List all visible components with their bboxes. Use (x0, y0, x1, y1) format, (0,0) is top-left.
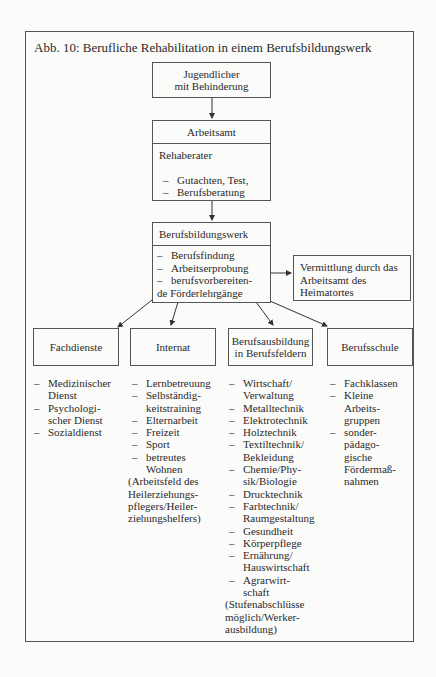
node-arbeitsamt-list: Gutachten, Test, Berufsberatung (159, 174, 264, 199)
list-item-line: Körperpflege (243, 537, 325, 549)
node-vermittlung-text: Vermittlung durch das Arbeitsamt des Hei… (300, 261, 404, 299)
list-item-line: Wirtschaft/ (243, 377, 325, 389)
list-item-line: Drucktechnik (243, 488, 325, 500)
node-berufsausbildung-line2: in Berufsfeldern (235, 347, 307, 360)
berufsausbildung-note: (Stufenabschlüssemöglich/Werker-ausbildu… (225, 598, 325, 635)
list-item: Wirtschaft/Verwaltung (225, 377, 325, 402)
list-item-line: Metalltechnik (243, 402, 325, 414)
list-item: Berufsberatung (159, 186, 264, 199)
list-item: betreutesWohnen (128, 451, 224, 476)
list-item: Gutachten, Test, (159, 174, 264, 187)
list-item: sonder-pädago-gischeFördermaß-nahmen (326, 426, 410, 487)
node-berufsschule-label: Berufsschule (341, 341, 398, 354)
note-line: (Stufenabschlüsse (225, 598, 325, 610)
list-item-line: Gesundheit (243, 525, 325, 537)
list-item: Sozialdienst (30, 426, 120, 438)
list-item-line: Hauswirtschaft (243, 561, 325, 573)
list-item: MedizinischerDienst (30, 377, 120, 402)
list-item: Drucktechnik (225, 488, 325, 500)
list-item: Gesundheit (225, 525, 325, 537)
node-berufsausbildung: Berufsausbildung in Berufsfeldern (228, 328, 313, 366)
list-item: Selbständig-keitstraining (128, 389, 224, 414)
list-item: Elternarbeit (128, 414, 224, 426)
list-internat: LernbetreuungSelbständig-keitstrainingEl… (128, 377, 224, 525)
list-item-line: keitstraining (146, 402, 224, 414)
arrow-bbw-berufsschule (270, 301, 327, 326)
node-berufsausbildung-line1: Berufsausbildung (232, 335, 310, 348)
list-item-line: Bekleidung (243, 451, 325, 463)
list-item: Chemie/Phy-sik/Biologie (225, 463, 325, 488)
node-arbeitsamt-header: Arbeitsamt (153, 121, 270, 144)
node-jugendlicher-line2: mit Behinderung (174, 80, 248, 93)
list-berufsausbildung: Wirtschaft/VerwaltungMetalltechnikElektr… (225, 377, 325, 635)
note-line: (Arbeitsfeld des (128, 475, 224, 487)
node-arbeitsamt-subtitle: Rehaberater (159, 149, 264, 162)
list-fachdienste: MedizinischerDienstPsychologi-scher Dien… (30, 377, 120, 438)
list-item-line: Arbeits- (344, 402, 410, 414)
list-item: Berufsfindung (153, 249, 270, 262)
node-fachdienste: Fachdienste (33, 328, 119, 366)
note-line: pflegers/Heiler- (128, 500, 224, 512)
list-item-line: Psychologi- (48, 402, 120, 414)
list-item-line: pädago- (344, 438, 410, 450)
list-item-line: gische (344, 451, 410, 463)
list-item: Fachklassen (326, 377, 410, 389)
list-item: Metalltechnik (225, 402, 325, 414)
list-item: Farbtechnik/Raumgestaltung (225, 500, 325, 525)
list-item: Holztechnik (225, 426, 325, 438)
node-jugendlicher-line1: Jugendlicher (183, 68, 239, 81)
node-berufsbildungswerk-continuation: de Förderlehrgänge (153, 287, 270, 300)
list-item-line: Dienst (48, 389, 120, 401)
node-fachdienste-label: Fachdienste (50, 341, 103, 354)
list-item-line: betreutes (146, 451, 224, 463)
list-item: Sport (128, 438, 224, 450)
node-berufsschule: Berufsschule (327, 328, 413, 366)
list-item-line: Fachklassen (344, 377, 410, 389)
list-item-line: Elternarbeit (146, 414, 224, 426)
list-item-line: Selbständig- (146, 389, 224, 401)
list-item: berufsvorbereiten- (153, 274, 270, 287)
note-line: möglich/Werker- (225, 611, 325, 623)
list-item: Körperpflege (225, 537, 325, 549)
list-item-line: nahmen (344, 475, 410, 487)
list-item-line: sik/Biologie (243, 475, 325, 487)
node-arbeitsamt: Arbeitsamt Rehaberater Gutachten, Test, … (152, 120, 271, 201)
list-item-line: Farbtechnik/ (243, 500, 325, 512)
list-item: KleineArbeits-gruppen (326, 389, 410, 426)
list-item: Psychologi-scher Dienst (30, 402, 120, 427)
internat-note: (Arbeitsfeld desHeilerziehungs-pflegers/… (128, 475, 224, 524)
arrow-bbw-internat (171, 302, 178, 325)
list-item-line: Kleine (344, 389, 410, 401)
list-item-line: Medizinischer (48, 377, 120, 389)
list-item-line: Ernährung/ (243, 549, 325, 561)
list-item-line: Holztechnik (243, 426, 325, 438)
list-item-line: Lernbetreuung (146, 377, 224, 389)
node-jugendlicher: Jugendlicher mit Behinderung (152, 62, 271, 98)
list-item-line: Fördermaß- (344, 463, 410, 475)
list-item-line: schaft (243, 586, 325, 598)
list-item-line: Chemie/Phy- (243, 463, 325, 475)
node-berufsbildungswerk-header: Berufsbildungswerk (153, 223, 270, 246)
list-berufsschule: FachklassenKleineArbeits-gruppensonder-p… (326, 377, 410, 488)
arrow-bbw-berufsausbildung (256, 302, 273, 325)
node-berufsbildungswerk: Berufsbildungswerk Berufsfindung Arbeits… (152, 222, 271, 303)
note-line: Heilerziehungs- (128, 488, 224, 500)
arrow-bbw-fachdienste (118, 300, 152, 327)
berufsausbildung-items: Wirtschaft/VerwaltungMetalltechnikElektr… (225, 377, 325, 598)
berufsschule-items: FachklassenKleineArbeits-gruppensonder-p… (326, 377, 410, 488)
list-item-line: Raumgestaltung (243, 512, 325, 524)
node-vermittlung: Vermittlung durch das Arbeitsamt des Hei… (293, 255, 411, 301)
node-internat-label: Internat (156, 341, 190, 354)
list-item: Textiltechnik/Bekleidung (225, 438, 325, 463)
list-item-line: Sozialdienst (48, 426, 120, 438)
note-line: ausbildung) (225, 623, 325, 635)
list-item-line: Elektrotechnik (243, 414, 325, 426)
list-item: Freizeit (128, 426, 224, 438)
list-item: Ernährung/Hauswirtschaft (225, 549, 325, 574)
list-item-line: sonder- (344, 426, 410, 438)
list-item-line: Wohnen (146, 463, 224, 475)
list-item-line: Textiltechnik/ (243, 438, 325, 450)
list-item-line: Sport (146, 438, 224, 450)
note-line: ziehungshelfers) (128, 512, 224, 524)
list-item-line: Agrarwirt- (243, 574, 325, 586)
